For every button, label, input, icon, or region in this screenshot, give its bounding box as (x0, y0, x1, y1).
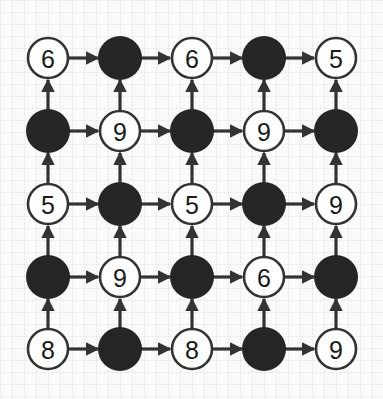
filled-circle (170, 109, 214, 153)
black-node[interactable] (242, 182, 286, 226)
node-number: 9 (329, 191, 343, 219)
node-number: 8 (41, 336, 55, 364)
black-node[interactable] (242, 36, 286, 80)
black-node[interactable] (170, 109, 214, 153)
node-number: 5 (41, 191, 55, 219)
number-node[interactable]: 6 (172, 38, 212, 78)
filled-circle (314, 255, 358, 299)
number-node[interactable]: 9 (316, 184, 356, 224)
number-node[interactable]: 9 (100, 111, 140, 151)
filled-circle (242, 327, 286, 371)
node-number: 5 (185, 191, 199, 219)
number-node[interactable]: 9 (100, 257, 140, 297)
number-node[interactable]: 8 (28, 329, 68, 369)
black-node[interactable] (98, 36, 142, 80)
black-node[interactable] (98, 182, 142, 226)
filled-circle (242, 182, 286, 226)
filled-circle (98, 182, 142, 226)
black-node[interactable] (314, 109, 358, 153)
number-node[interactable]: 9 (316, 329, 356, 369)
node-number: 9 (329, 336, 343, 364)
number-node[interactable]: 6 (28, 38, 68, 78)
node-number: 8 (185, 336, 199, 364)
node-number: 6 (41, 45, 55, 73)
filled-circle (98, 327, 142, 371)
number-node[interactable]: 8 (172, 329, 212, 369)
puzzle-board: 6659955996889 (0, 0, 383, 399)
black-node[interactable] (170, 255, 214, 299)
filled-circle (242, 36, 286, 80)
filled-circle (98, 36, 142, 80)
black-node[interactable] (26, 255, 70, 299)
number-node[interactable]: 5 (172, 184, 212, 224)
filled-circle (170, 255, 214, 299)
black-node[interactable] (26, 109, 70, 153)
filled-circle (314, 109, 358, 153)
node-number: 9 (113, 118, 127, 146)
black-node[interactable] (314, 255, 358, 299)
number-node[interactable]: 5 (316, 38, 356, 78)
number-node[interactable]: 6 (244, 257, 284, 297)
filled-circle (26, 255, 70, 299)
arrow-grid-diagram: 6659955996889 (0, 0, 383, 399)
number-node[interactable]: 5 (28, 184, 68, 224)
black-node[interactable] (242, 327, 286, 371)
black-node[interactable] (98, 327, 142, 371)
number-node[interactable]: 9 (244, 111, 284, 151)
node-number: 6 (185, 45, 199, 73)
filled-circle (26, 109, 70, 153)
node-number: 9 (257, 118, 271, 146)
node-number: 5 (329, 45, 343, 73)
node-number: 6 (257, 264, 271, 292)
node-number: 9 (113, 264, 127, 292)
